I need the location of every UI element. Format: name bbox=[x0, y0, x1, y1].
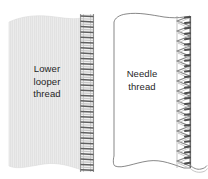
stitch-diagram-svg bbox=[0, 0, 208, 179]
left-fabric-group bbox=[9, 10, 94, 175]
thread-tail bbox=[189, 165, 208, 172]
serger-stitch-illustration: Lower looper thread Needle thread bbox=[0, 0, 208, 179]
left-fabric-shape bbox=[9, 16, 92, 170]
right-fabric-group bbox=[113, 13, 207, 172]
left-looper-stitch-column bbox=[80, 14, 94, 172]
